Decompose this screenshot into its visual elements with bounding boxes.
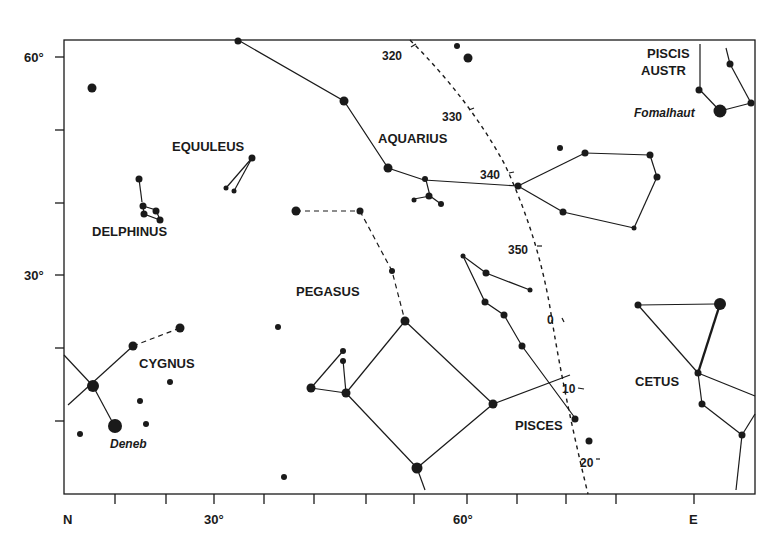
star <box>140 203 147 210</box>
star <box>560 209 567 216</box>
star <box>454 43 460 49</box>
star <box>384 164 393 173</box>
y-axis-ticks <box>55 57 64 421</box>
star <box>340 358 346 364</box>
label-piscis: PISCIS <box>647 46 690 61</box>
aquarius-lines <box>238 40 657 228</box>
star <box>654 174 661 181</box>
stars <box>77 38 755 481</box>
piscis-austrinus-lines <box>700 44 751 111</box>
star <box>412 463 423 474</box>
x-label-60: 60° <box>453 512 473 527</box>
star <box>438 201 444 207</box>
star <box>167 379 173 385</box>
label-equuleus: EQUULEUS <box>172 139 245 154</box>
star <box>501 312 508 319</box>
star <box>699 401 706 408</box>
ecliptic-tick-marks <box>411 44 600 459</box>
x-label-e: E <box>689 512 698 527</box>
star <box>224 186 229 191</box>
star <box>515 183 522 190</box>
star <box>489 400 498 409</box>
star <box>176 324 185 333</box>
star <box>461 254 466 259</box>
star <box>307 384 316 393</box>
star <box>275 324 281 330</box>
label-pisces: PISCES <box>515 418 563 433</box>
ecliptic-label-20: 20 <box>580 456 594 470</box>
star <box>426 193 433 200</box>
ecliptic-label-350: 350 <box>508 243 528 257</box>
star <box>714 298 726 310</box>
x-axis-ticks <box>115 494 694 504</box>
label-delphinus: DELPHINUS <box>92 224 167 239</box>
star <box>232 189 237 194</box>
star <box>748 100 755 107</box>
star <box>519 343 526 350</box>
star <box>422 176 428 182</box>
star-deneb <box>108 419 122 433</box>
star <box>464 54 473 63</box>
x-label-30: 30° <box>204 512 224 527</box>
star <box>249 155 256 162</box>
star <box>696 87 703 94</box>
star <box>389 268 395 274</box>
star <box>401 317 410 326</box>
equuleus-lines <box>226 158 252 191</box>
star <box>528 288 533 293</box>
star <box>647 152 654 159</box>
star <box>572 416 579 423</box>
star <box>340 348 346 354</box>
cetus-lines <box>638 304 755 490</box>
star <box>635 302 642 309</box>
pisces-lines <box>463 256 575 418</box>
ecliptic-label-330: 330 <box>442 110 462 124</box>
star <box>727 61 734 68</box>
label-fomalhaut: Fomalhaut <box>634 106 696 120</box>
y-label-30: 30° <box>24 268 44 283</box>
cygnus-lines <box>64 328 180 427</box>
star <box>136 176 143 183</box>
x-label-n: N <box>63 512 72 527</box>
star <box>357 208 364 215</box>
star <box>235 38 242 45</box>
y-label-60: 60° <box>24 50 44 65</box>
star <box>557 145 563 151</box>
star <box>483 270 490 277</box>
star <box>281 474 287 480</box>
star <box>292 207 301 216</box>
label-cetus: CETUS <box>635 374 679 389</box>
star <box>582 150 589 157</box>
star-fomalhaut <box>714 105 727 118</box>
label-austr: AUSTR <box>641 63 686 78</box>
star <box>482 299 489 306</box>
ecliptic-label-10: 10 <box>562 382 576 396</box>
star <box>88 84 97 93</box>
star <box>153 208 160 215</box>
ecliptic-label-340: 340 <box>480 168 500 182</box>
ecliptic-label-0: 0 <box>547 313 554 327</box>
star <box>412 198 417 203</box>
pegasus-lines <box>296 211 493 490</box>
star-chart: 60° 30° N 30° 60° E EQUULEUS DELPHINUS A… <box>0 0 784 549</box>
star <box>141 211 148 218</box>
label-cygnus: CYGNUS <box>139 356 195 371</box>
star <box>586 438 593 445</box>
star <box>137 398 143 404</box>
ecliptic-label-320: 320 <box>382 49 402 63</box>
label-pegasus: PEGASUS <box>296 284 360 299</box>
label-aquarius: AQUARIUS <box>378 131 448 146</box>
star <box>77 431 83 437</box>
star <box>129 342 138 351</box>
label-deneb: Deneb <box>110 437 147 451</box>
star <box>143 421 149 427</box>
star <box>739 432 746 439</box>
star <box>342 389 351 398</box>
star <box>157 217 164 224</box>
star <box>632 226 637 231</box>
star <box>340 97 349 106</box>
star <box>695 370 702 377</box>
star <box>87 380 99 392</box>
